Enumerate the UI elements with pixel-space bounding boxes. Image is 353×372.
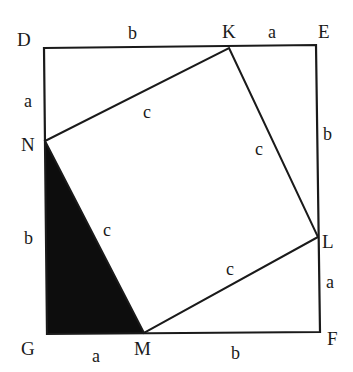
side-label-ng: b: [24, 228, 33, 248]
side-label-lm: c: [226, 259, 234, 279]
side-label-el: b: [323, 124, 332, 144]
side-label-ke: a: [268, 22, 276, 42]
side-label-lf: a: [326, 272, 334, 292]
side-label-kl: c: [255, 139, 263, 159]
side-label-dn: a: [24, 91, 32, 111]
vertex-label-n: N: [21, 134, 35, 155]
side-label-mf: b: [231, 343, 240, 363]
vertex-label-l: L: [322, 231, 334, 252]
vertex-label-e: E: [318, 21, 330, 42]
side-label-dk: b: [128, 23, 137, 43]
vertex-label-g: G: [21, 338, 35, 359]
side-label-nk: c: [143, 102, 151, 122]
pythagorean-diagram: DKENLGMF baacbcbccaab: [0, 0, 353, 372]
side-label-gm: a: [92, 346, 100, 366]
vertex-label-m: M: [134, 338, 151, 359]
vertex-label-k: K: [222, 21, 236, 42]
vertex-label-f: F: [327, 328, 338, 349]
side-label-nm: c: [103, 220, 111, 240]
vertex-label-d: D: [17, 29, 31, 50]
